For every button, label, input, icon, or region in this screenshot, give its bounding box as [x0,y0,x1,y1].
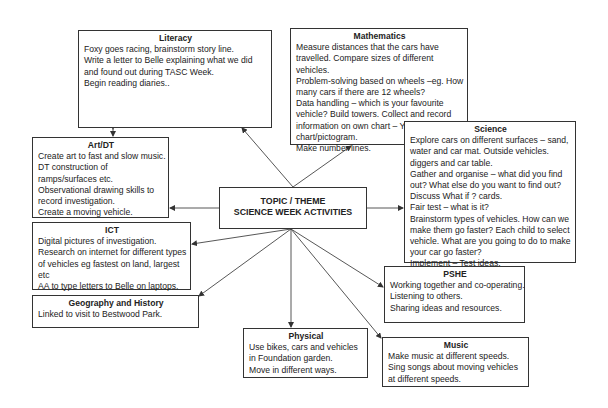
science-line: Brainstorm types of vehicles. How can we [410,214,571,225]
art-dt-title: Art/DT [38,140,164,151]
ict-line: Digital pictures of investigation. [38,236,186,247]
science-line: Fair test – what is it? [410,202,571,213]
literacy-line: Foxy goes racing, brainstorm story line. [84,44,267,55]
art-dt-line: Create a moving vehicle. [38,207,164,218]
music-box: Music Make music at different speeds. Si… [382,337,529,387]
science-title: Science [410,124,571,135]
art-dt-line: record investigation. [38,196,164,207]
mathematics-line: vehicle? Build towers. Collect and recor… [296,109,463,120]
physical-box: Physical Use bikes, cars and vehicles in… [243,328,368,378]
mathematics-line: Data handling – which is your favourite [296,98,463,109]
physical-line: in Foundation garden. [249,353,363,364]
mathematics-line: Measure distances that the cars have [296,42,463,53]
geography-history-box: Geography and History Linked to visit to… [32,295,199,328]
science-line: vehicle. What are you going to do to mak… [410,236,571,247]
mathematics-line: vehicles. [296,65,463,76]
science-line: Gather and organise – what did you find [410,169,571,180]
science-line: Discuss What if ? cards. [410,191,571,202]
music-title: Music [388,340,524,351]
arrow-to-ict [192,229,291,244]
music-line: at different speeds. [388,374,524,385]
music-line: Sing songs about moving vehicles [388,362,524,373]
pshe-title: PSHE [390,269,520,280]
physical-line: Move in different ways. [249,365,363,376]
science-line: Explore cars on different surfaces – san… [410,135,571,146]
music-line: Make music at different speeds. [388,351,524,362]
mathematics-line: many cars if there are 12 wheels? [296,87,463,98]
arrow-to-pshe [291,229,383,287]
art-dt-line: ramps/surfaces etc. [38,174,164,185]
arrow-to-geography [199,229,291,296]
art-dt-line: DT construction of [38,162,164,173]
topic-theme-box: TOPIC / THEME SCIENCE WEEK ACTIVITIES [219,187,367,229]
geography-history-line: Linked to visit to Bestwood Park. [38,309,194,320]
literacy-line: Write a letter to Belle explaining what … [84,55,267,66]
science-line: out? What else do you want to find out? [410,180,571,191]
literacy-title: Literacy [84,33,267,44]
ict-line: AA to type letters to Belle on laptops. [38,281,186,292]
pshe-line: Listening to others. [390,291,520,302]
geography-history-title: Geography and History [38,298,194,309]
physical-line: Use bikes, cars and vehicles [249,342,363,353]
science-line: water and car mat. Outside vehicles. [410,146,571,157]
physical-title: Physical [249,331,363,342]
literacy-line: and found out during TASC Week. [84,67,267,78]
ict-line: of vehicles eg fastest on land, largest [38,259,186,270]
art-dt-line: Observational drawing skills to [38,185,164,196]
ict-box: ICT Digital pictures of investigation. R… [32,222,191,290]
mathematics-title: Mathematics [296,31,463,42]
arrow-to-music [291,229,381,338]
pshe-box: PSHE Working together and co-operating. … [384,266,525,323]
art-dt-box: Art/DT Create art to fast and slow music… [32,137,169,218]
ict-line: etc [38,270,186,281]
ict-title: ICT [38,225,186,236]
art-dt-line: Create art to fast and slow music. [38,151,164,162]
pshe-line: Sharing ideas and resources. [390,303,520,314]
science-line: make them go faster? Each child to selec… [410,225,571,236]
topic-theme-label: TOPIC / THEME [220,196,366,207]
science-week-label: SCIENCE WEEK ACTIVITIES [220,207,366,218]
mathematics-line: Problem-solving based on wheels –eg. How [296,76,463,87]
ict-line: Research on internet for different types [38,247,186,258]
science-box: Science Explore cars on different surfac… [404,121,576,263]
science-line: your car go faster? [410,247,571,258]
literacy-box: Literacy Foxy goes racing, brainstorm st… [78,30,272,128]
literacy-line: Begin reading diaries.. [84,78,267,89]
mathematics-line: travelled. Compare sizes of different [296,53,463,64]
arrow-to-literacy [242,128,293,187]
science-line: diggers and car table. [410,158,571,169]
pshe-line: Working together and co-operating. [390,280,520,291]
